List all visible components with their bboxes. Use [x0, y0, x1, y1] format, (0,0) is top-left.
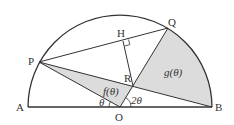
label-g-theta: g(θ) — [164, 66, 183, 79]
segment-PQ — [39, 28, 168, 62]
label-B: B — [215, 101, 222, 113]
label-theta: θ — [99, 96, 105, 108]
label-O: O — [115, 111, 123, 123]
label-f-theta: f(θ) — [103, 85, 119, 98]
label-A: A — [16, 101, 24, 113]
shaded-region-f — [39, 62, 133, 107]
label-Q: Q — [168, 16, 176, 28]
label-2theta: 2θ — [131, 94, 143, 106]
label-P: P — [28, 55, 34, 67]
semicircle-diagram: A B O P Q H R f(θ) g(θ) θ 2θ — [0, 0, 234, 125]
label-H: H — [117, 27, 125, 39]
right-angle-mark — [125, 40, 130, 46]
label-R: R — [124, 72, 132, 84]
angle-arc-theta — [109, 102, 110, 107]
